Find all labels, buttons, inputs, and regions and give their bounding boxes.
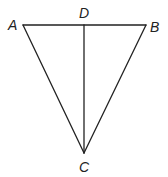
vertex-label-a: A	[7, 17, 17, 33]
vertex-label-c: C	[79, 159, 90, 175]
point-label-d: D	[79, 5, 89, 21]
segment-bc	[84, 25, 146, 153]
vertex-label-b: B	[150, 19, 159, 35]
triangle-diagram: A B C D	[0, 0, 168, 177]
segment-ac	[23, 25, 84, 153]
diagram-canvas: A B C D	[0, 0, 168, 177]
